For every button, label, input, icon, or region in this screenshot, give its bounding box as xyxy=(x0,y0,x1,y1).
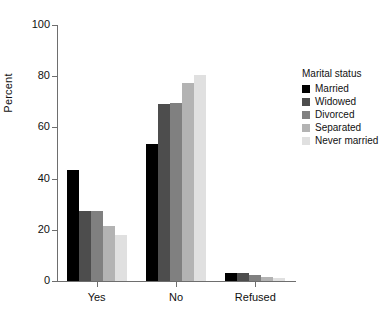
legend-item-separated[interactable]: Separated xyxy=(302,121,388,134)
legend-item-divorced[interactable]: Divorced xyxy=(302,108,388,121)
x-axis-tick-label: Yes xyxy=(52,291,142,303)
legend-items: MarriedWidowedDivorcedSeparatedNever mar… xyxy=(302,82,388,147)
y-axis-tick xyxy=(52,179,57,180)
y-axis-tick-label: 20 xyxy=(4,223,50,235)
bar-chart: Percent 020406080100YesNoRefused Marital… xyxy=(0,0,388,324)
legend-item-widowed[interactable]: Widowed xyxy=(302,95,388,108)
legend-swatch-icon xyxy=(302,98,310,106)
legend: Marital status MarriedWidowedDivorcedSep… xyxy=(302,68,388,147)
bar xyxy=(194,75,206,281)
y-axis-tick xyxy=(52,76,57,77)
bar xyxy=(182,83,194,281)
legend-title: Marital status xyxy=(302,68,388,79)
bar xyxy=(170,103,182,281)
legend-item-label: Divorced xyxy=(315,108,354,121)
legend-item-married[interactable]: Married xyxy=(302,82,388,95)
x-axis-tick xyxy=(97,282,98,287)
x-axis-tick xyxy=(255,282,256,287)
bar xyxy=(261,277,273,281)
bar xyxy=(115,235,127,281)
x-axis-tick-label: Refused xyxy=(210,291,300,303)
x-axis-tick xyxy=(176,282,177,287)
x-axis-tick-label: No xyxy=(131,291,221,303)
bar xyxy=(91,211,103,281)
y-axis-tick-label: 40 xyxy=(4,172,50,184)
y-axis-tick xyxy=(52,230,57,231)
legend-item-never-married[interactable]: Never married xyxy=(302,134,388,147)
plot-area: 020406080100YesNoRefused xyxy=(57,25,295,281)
bar xyxy=(237,273,249,281)
legend-swatch-icon xyxy=(302,85,310,93)
y-axis-tick-label: 60 xyxy=(4,120,50,132)
legend-swatch-icon xyxy=(302,111,310,119)
y-axis-tick xyxy=(52,127,57,128)
bar xyxy=(67,170,79,281)
bar xyxy=(158,104,170,281)
y-axis-tick-label: 0 xyxy=(4,274,50,286)
y-axis-line xyxy=(57,25,58,282)
legend-swatch-icon xyxy=(302,137,310,145)
y-axis-tick-label: 100 xyxy=(4,18,50,30)
y-axis-tick xyxy=(52,281,57,282)
legend-swatch-icon xyxy=(302,124,310,132)
bar xyxy=(146,144,158,281)
legend-item-label: Married xyxy=(315,82,349,95)
bar xyxy=(79,211,91,281)
bar xyxy=(249,275,261,281)
legend-item-label: Separated xyxy=(315,121,361,134)
legend-item-label: Never married xyxy=(315,134,378,147)
y-axis-tick xyxy=(52,25,57,26)
bar xyxy=(273,278,285,281)
legend-item-label: Widowed xyxy=(315,95,356,108)
bar xyxy=(225,273,237,281)
y-axis-tick-label: 80 xyxy=(4,69,50,81)
bar xyxy=(103,226,115,281)
